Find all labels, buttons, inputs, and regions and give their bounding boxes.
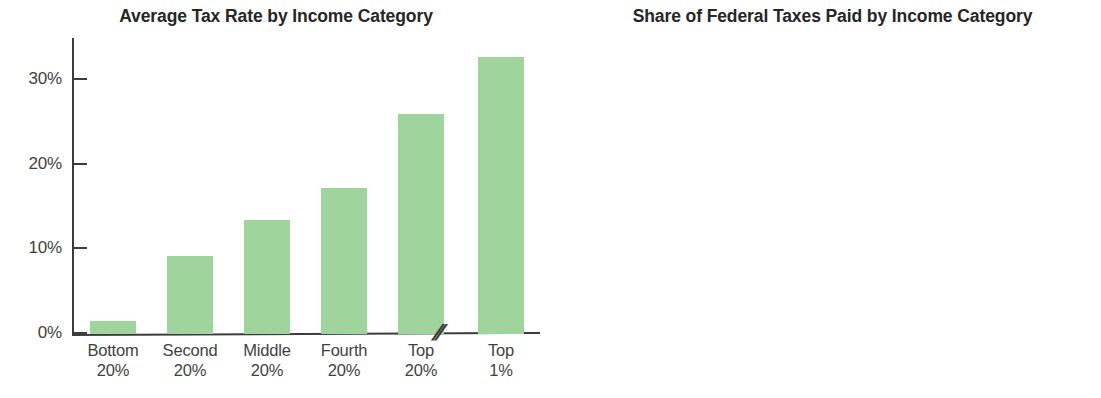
chart-panel-average-tax-rate: Average Tax Rate by Income Category 0%10… [0, 0, 552, 398]
y-tick-label: 0% [38, 323, 62, 343]
x-label-line1: Middle [243, 341, 290, 359]
chart-title-left: Average Tax Rate by Income Category [0, 6, 552, 27]
x-label-line1: Second [163, 341, 218, 359]
x-label-line1: Top [408, 341, 434, 359]
y-tick-label: 10% [29, 238, 62, 258]
bar-slot [398, 38, 444, 334]
bar-slot [321, 38, 367, 334]
bar-second-20- [167, 256, 213, 334]
bar-slot [478, 38, 524, 334]
x-label-line1: Fourth [321, 341, 368, 359]
x-label-line1: Top [488, 341, 514, 359]
bar-top-20- [398, 114, 444, 334]
chart-panel-share-of-taxes: Share of Federal Taxes Paid by Income Ca… [552, 0, 1101, 398]
y-tick-label: 20% [29, 154, 62, 174]
x-label-line2: 1% [451, 360, 551, 380]
y-tick-label: 30% [29, 69, 62, 89]
bar-slot [244, 38, 290, 334]
x-label-top-1: Top1% [451, 340, 551, 380]
plot-area-left: 0%10%20%30% // [72, 38, 540, 336]
bar-top-1- [478, 57, 524, 334]
bar-slot [90, 38, 136, 334]
chart-title-right: Share of Federal Taxes Paid by Income Ca… [558, 6, 1101, 27]
x-label-line1: Bottom [87, 341, 138, 359]
bar-bottom-20- [90, 321, 136, 334]
bar-slot [167, 38, 213, 334]
two-panel-bar-figure: Average Tax Rate by Income Category 0%10… [0, 0, 1101, 398]
bar-fourth-20- [321, 188, 367, 334]
bars-left [72, 38, 540, 334]
bar-middle-20- [244, 220, 290, 334]
